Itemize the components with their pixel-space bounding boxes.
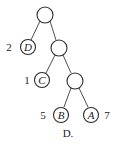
edge-root-n1	[50, 21, 56, 40]
option-caption: D.	[63, 127, 74, 139]
edge-n1-n2	[63, 55, 71, 73]
internal-node-2	[67, 73, 83, 89]
edge-n1-c	[46, 55, 55, 73]
leaf-letter-c: C	[38, 74, 46, 86]
leaf-letter-b: B	[58, 109, 65, 121]
leaf-letter-d: D	[23, 41, 32, 53]
weight-b: 5	[40, 109, 46, 121]
leaf-letter-a: A	[87, 109, 95, 121]
tree-diagram: D C B A 2 1 5 7 D.	[0, 0, 116, 147]
edge-n2-b	[64, 88, 71, 107]
edge-root-d	[31, 21, 40, 40]
weight-a: 7	[104, 109, 110, 121]
weight-c: 1	[24, 74, 30, 86]
root-node	[37, 7, 53, 23]
weight-d: 2	[6, 41, 12, 53]
internal-node-1	[51, 40, 67, 56]
edge-n2-a	[79, 88, 88, 107]
